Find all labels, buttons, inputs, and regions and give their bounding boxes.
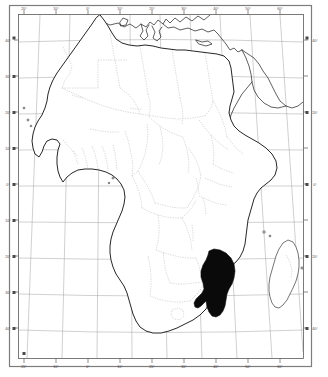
right-tick-label: 20° xyxy=(312,111,318,115)
top-tick-label: 20° xyxy=(21,7,27,11)
top-tick-label: 10° xyxy=(53,7,59,11)
left-tick-label: 30° xyxy=(5,75,11,79)
top-tick-label: 60° xyxy=(277,7,283,11)
bottom-tick-label: 0° xyxy=(86,365,90,369)
top-tick-label: 30° xyxy=(181,7,187,11)
bottom-tick-label: 20° xyxy=(21,365,27,369)
left-tick-label: 20° xyxy=(5,111,11,115)
right-tick-label: 40° xyxy=(312,327,318,331)
left-tick-label: 30° xyxy=(5,291,11,295)
right-tick-label: 40° xyxy=(312,39,318,43)
bottom-tick-label: 40° xyxy=(213,365,219,369)
top-tick-label: 0° xyxy=(86,7,90,11)
top-tick-label: 40° xyxy=(213,7,219,11)
bottom-tick-label: 50° xyxy=(245,365,251,369)
bottom-tick-label: 60° xyxy=(277,365,283,369)
left-tick-label: 40° xyxy=(5,39,11,43)
right-tick-label: 0° xyxy=(313,183,317,187)
top-tick-label: 10° xyxy=(117,7,123,11)
left-tick-label: 20° xyxy=(5,255,11,259)
right-tick-label: 20° xyxy=(312,255,318,259)
bottom-tick-label: 10° xyxy=(53,365,59,369)
map-canvas: 20° 10° 0° 10° 20° 30° 40° 50° 60° 20° 1… xyxy=(0,0,328,377)
bottom-tick-label: 10° xyxy=(117,365,123,369)
bottom-tick-label: 30° xyxy=(181,365,187,369)
left-tick-label: 10° xyxy=(5,147,11,151)
top-tick-label: 50° xyxy=(245,7,251,11)
left-tick-label: 10° xyxy=(5,219,11,223)
map-figure: 20° 10° 0° 10° 20° 30° 40° 50° 60° 20° 1… xyxy=(0,0,328,377)
bottom-tick-label: 20° xyxy=(149,365,155,369)
top-tick-label: 20° xyxy=(149,7,155,11)
left-tick-label: 40° xyxy=(5,327,11,331)
left-tick-label: 0° xyxy=(6,183,10,187)
